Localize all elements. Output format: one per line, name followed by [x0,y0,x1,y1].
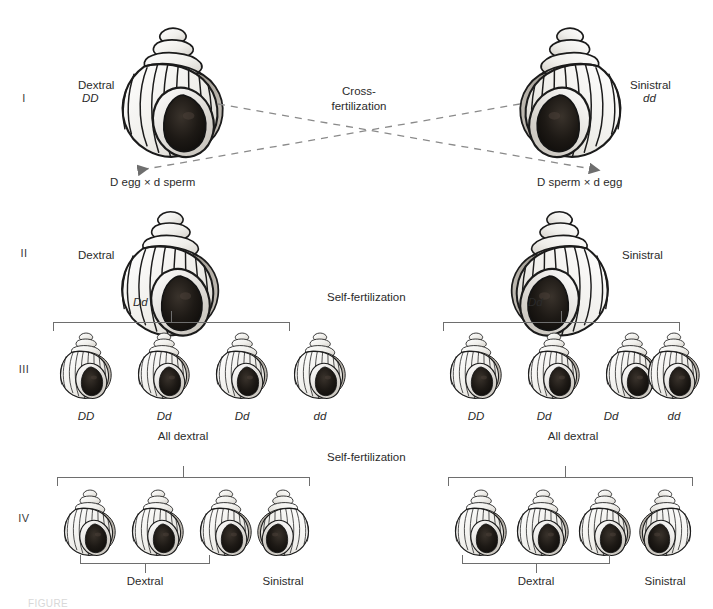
snail-gen3-right-4 [641,330,707,404]
gen2-right-phenotype-label: Sinistral [622,248,663,262]
gen4-left-group-label: Dextral [105,574,185,588]
snail-coiling-inheritance-figure: I II III IV Dextral DD Sinistral dd Cros… [0,0,713,609]
gen3-left-genotype-1: DD [53,410,119,422]
gen4-left-dextral-group-stem [145,564,146,573]
snail-gen4-right-2-dextral [510,487,576,561]
snail-gen3-right-1 [443,330,509,404]
gen3-right-phenotype-summary: All dextral [493,429,653,443]
gen2-left-genotype-label: Dd [133,296,148,308]
gen3-left-genotype-2: Dd [131,410,197,422]
snail-gen4-left-1-dextral [57,487,123,561]
gen4-right-dextral-group-stem [536,564,537,573]
gen3-left-genotype-4: dd [287,410,353,422]
snail-gen4-right-4-sinistral [632,487,698,561]
snail-gen3-left-1 [53,330,119,404]
gen3-right-genotype-3: Dd [578,410,644,422]
snail-gen4-right-1-dextral [448,487,514,561]
gen3-right-genotype-2: Dd [511,410,577,422]
gen4-left-dextral-group-bracket [80,555,210,564]
snail-gen3-left-2 [131,330,197,404]
snail-gen3-left-3 [209,330,275,404]
gen4-right-bracket [448,477,693,486]
arrow-right-parent-to-left-cross [140,104,520,170]
gen3-right-genotype-1: DD [443,410,509,422]
gen3-right-genotype-4: dd [641,410,707,422]
gen2-right-genotype-label: Dd [528,296,543,308]
figure-bottom-caption: FIGURE [28,598,68,609]
gamete-label-left: D egg × d sperm [110,176,195,188]
gen4-left-bracket [57,477,310,486]
snail-gen4-left-2-dextral [125,487,191,561]
self-fertilization-label-1: Self-fertilization [327,290,406,304]
gen4-right-single-label: Sinistral [622,574,708,588]
gen3-left-phenotype-summary: All dextral [103,429,263,443]
snail-gen4-left-4-sinistral [250,487,316,561]
snail-gen3-right-2 [521,330,587,404]
gen4-right-dextral-group-bracket [462,555,610,564]
self-fertilization-label-2: Self-fertilization [327,450,406,464]
arrow-left-parent-to-right-cross [218,104,598,170]
gen3-left-genotype-3: Dd [209,410,275,422]
gamete-label-right: D sperm × d egg [537,176,622,188]
gen2-left-phenotype-label: Dextral [78,248,114,262]
gen4-left-single-label: Sinistral [240,574,326,588]
snail-gen3-left-4 [287,330,353,404]
snail-gen4-right-3-dextral [572,487,638,561]
gen4-right-group-label: Dextral [496,574,576,588]
